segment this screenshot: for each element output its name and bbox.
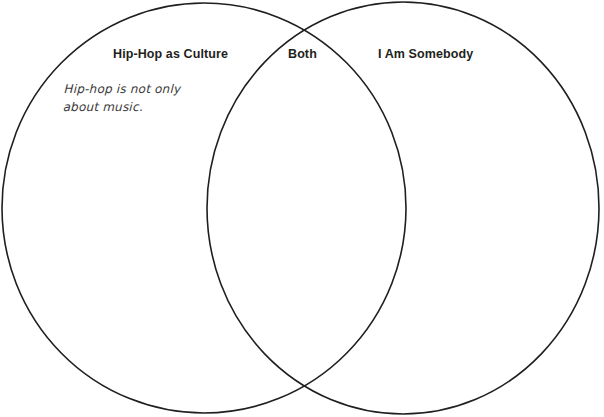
- overlap-label: Both: [288, 48, 317, 61]
- venn-diagram-worksheet: Hip-Hop as Culture Both I Am Somebody Hi…: [0, 0, 604, 417]
- left-circle-label: Hip-Hop as Culture: [113, 48, 228, 61]
- left-circle-handwritten-note[interactable]: Hip-hop is not only about music.: [63, 80, 255, 116]
- left-circle-outline: [2, 3, 406, 413]
- venn-diagram-canvas: [0, 0, 604, 417]
- right-circle-label: I Am Somebody: [378, 48, 473, 61]
- right-circle-outline: [207, 2, 599, 414]
